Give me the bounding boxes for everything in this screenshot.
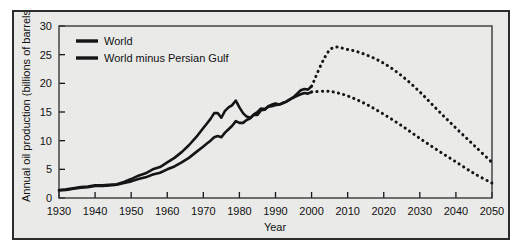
y-tick-label: 15 bbox=[40, 106, 52, 118]
y-tick-label: 30 bbox=[40, 20, 52, 32]
x-tick-label: 1940 bbox=[83, 205, 107, 217]
x-tick-label: 1970 bbox=[191, 205, 215, 217]
legend: World World minus Persian Gulf bbox=[76, 35, 229, 64]
x-axis-tick-labels: 1930194019501960197019801990200020102020… bbox=[47, 205, 504, 217]
x-tick-label: 2040 bbox=[444, 205, 468, 217]
oil-production-chart: Annual oil production (billions of barre… bbox=[14, 12, 508, 238]
series-world-minus-gulf-historical-line bbox=[59, 92, 312, 191]
legend-label-world: World bbox=[104, 35, 133, 47]
y-tick-label: 25 bbox=[40, 49, 52, 61]
x-tick-label: 2030 bbox=[408, 205, 432, 217]
y-tick-label: 20 bbox=[40, 77, 52, 89]
y-tick-label: 10 bbox=[40, 135, 52, 147]
legend-label-world-minus-gulf: World minus Persian Gulf bbox=[104, 52, 229, 64]
x-tick-label: 1960 bbox=[155, 205, 179, 217]
series-world-minus-gulf-projection-line bbox=[312, 91, 492, 183]
x-tick-label: 2020 bbox=[372, 205, 396, 217]
series-world-historical-line bbox=[59, 86, 312, 190]
x-axis-ticks bbox=[59, 192, 492, 198]
x-axis-title: Year bbox=[264, 221, 287, 233]
x-tick-label: 2010 bbox=[335, 205, 359, 217]
y-axis-tick-labels: 051015202530 bbox=[40, 20, 52, 204]
y-tick-label: 0 bbox=[46, 192, 52, 204]
series-world-projection-line bbox=[312, 47, 492, 162]
x-tick-label: 2050 bbox=[480, 205, 504, 217]
x-tick-label: 1990 bbox=[263, 205, 287, 217]
x-tick-label: 1930 bbox=[47, 205, 71, 217]
figure-panel: Annual oil production (billions of barre… bbox=[12, 10, 510, 240]
y-axis-ticks bbox=[59, 26, 65, 198]
y-axis-title: Annual oil production (billions of barre… bbox=[20, 12, 32, 202]
x-tick-label: 2000 bbox=[299, 205, 323, 217]
x-tick-label: 1950 bbox=[119, 205, 143, 217]
x-tick-label: 1980 bbox=[227, 205, 251, 217]
y-tick-label: 5 bbox=[46, 163, 52, 175]
